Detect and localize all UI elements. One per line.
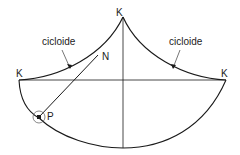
label-cusp-left: K xyxy=(16,69,23,79)
left-cycloid-curve xyxy=(19,17,123,80)
cycloid-pendulum-diagram xyxy=(0,0,240,155)
right-arrowhead xyxy=(171,64,176,69)
label-left-cycloid: cicloide xyxy=(42,37,75,47)
label-point-p: P xyxy=(47,112,54,122)
label-right-cycloid: cicloide xyxy=(169,37,202,47)
label-cusp-right: K xyxy=(221,69,228,79)
right-cycloid-curve xyxy=(123,17,226,80)
bob-point xyxy=(37,115,41,119)
label-cusp-top: K xyxy=(116,8,123,18)
label-point-n: N xyxy=(102,52,109,62)
